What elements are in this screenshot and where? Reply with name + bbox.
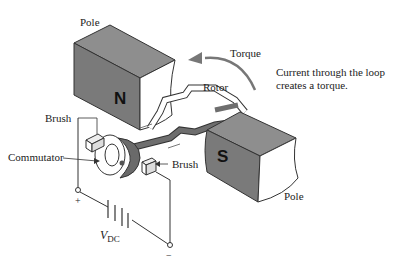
- brush-right: [142, 158, 156, 175]
- brush-right-label: Brush: [172, 159, 198, 170]
- pole-top-label: Pole: [80, 17, 100, 28]
- rotor-label: Rotor: [203, 82, 228, 93]
- south-label: S: [217, 148, 228, 165]
- pole-bottom-label: Pole: [284, 191, 304, 202]
- plus-terminal-label: +: [75, 196, 81, 206]
- dc-motor-diagram: [0, 0, 393, 264]
- vdc-label: VDC: [100, 229, 120, 244]
- torque-label: Torque: [230, 48, 261, 59]
- battery-symbol: [108, 200, 128, 228]
- caption-line-2: creates a torque.: [276, 79, 385, 92]
- minus-terminal-label: −: [166, 251, 172, 261]
- brush-left-label: Brush: [45, 113, 71, 124]
- commutator-label: Commutator: [8, 152, 64, 163]
- caption-line-1: Current through the loop: [276, 66, 385, 79]
- north-label: N: [114, 90, 126, 107]
- caption: Current through the loop creates a torqu…: [276, 66, 385, 92]
